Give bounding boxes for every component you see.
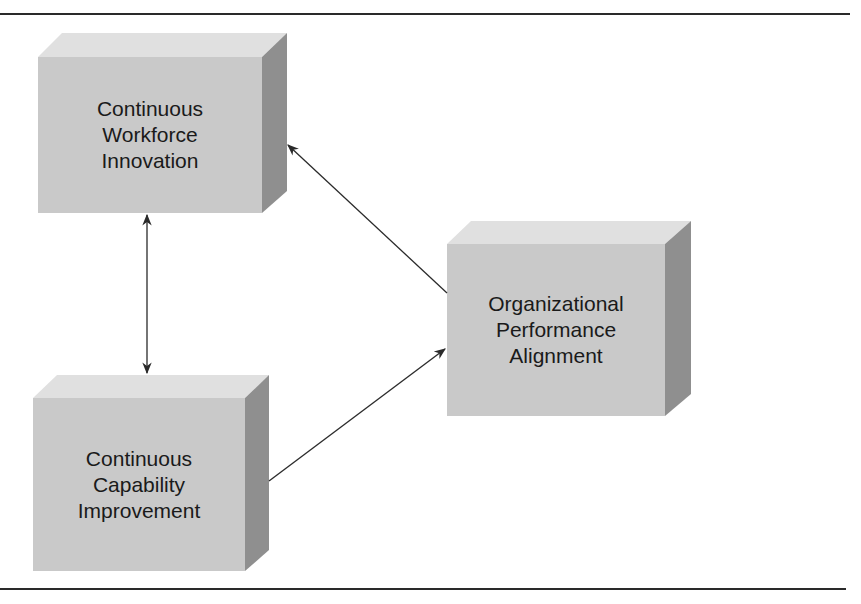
connectors [0,0,861,604]
arrow-capability-alignment [269,349,445,481]
arrow-alignment-innovation [288,145,447,293]
